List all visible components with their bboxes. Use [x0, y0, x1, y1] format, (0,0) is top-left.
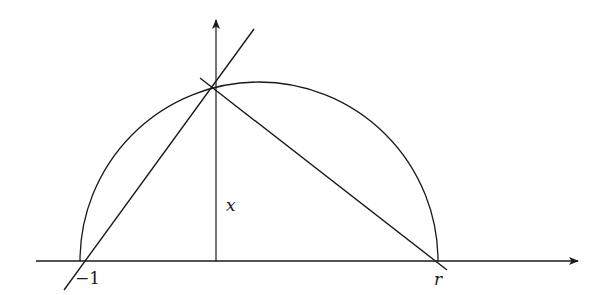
label-minus-one: −1 — [75, 268, 100, 288]
semicircle — [80, 82, 438, 261]
label-r: r — [434, 269, 443, 289]
chord-left — [64, 29, 254, 290]
chord-right — [200, 78, 447, 270]
label-x: x — [226, 195, 236, 215]
geometric-diagram: −1 r x — [0, 0, 604, 295]
